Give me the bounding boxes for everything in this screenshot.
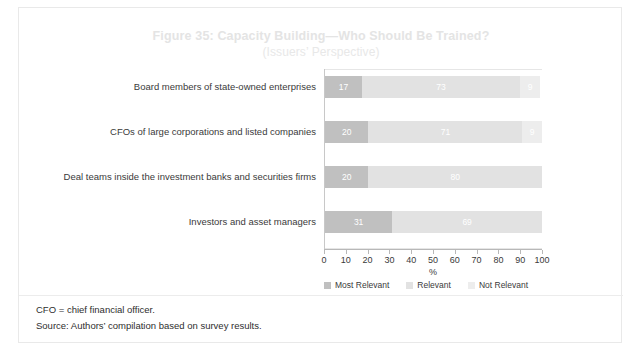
x-axis-ticks: 0 10 20 30 40 50 60 70 80 90 100 [324, 250, 542, 255]
bar-value-label: 20 [342, 127, 351, 137]
bar-row: Investors and asset managers 31 69 [19, 204, 623, 249]
bar-segment-most-relevant[interactable]: 20 [325, 121, 368, 143]
bar-segment-most-relevant[interactable]: 31 [325, 211, 392, 233]
stacked-bar: 31 69 [325, 211, 542, 233]
bar-value-label: 9 [530, 127, 535, 137]
bar-value-label: 80 [450, 172, 459, 182]
bar-row: Board members of state-owned enterprises… [19, 69, 623, 114]
legend-label: Not Relevant [479, 280, 528, 290]
bar-value-label: 71 [441, 127, 450, 137]
legend-label: Relevant [417, 280, 451, 290]
bar-segment-not-relevant[interactable]: 9 [522, 121, 542, 143]
legend-item-relevant[interactable]: Relevant [406, 280, 451, 290]
bar-segment-relevant[interactable]: 71 [368, 121, 522, 143]
note-abbreviation: CFO = chief financial officer. [36, 302, 596, 318]
figure-title-subtitle: (Issuers’ Perspective) [19, 44, 623, 60]
chart-plot-area: Board members of state-owned enterprises… [19, 69, 623, 264]
bar-value-label: 69 [462, 217, 471, 227]
bar-segment-relevant[interactable]: 73 [362, 76, 520, 98]
bar-segment-most-relevant[interactable]: 20 [325, 166, 368, 188]
category-label: Deal teams inside the investment banks a… [19, 171, 316, 182]
category-label: Investors and asset managers [19, 216, 316, 227]
bar-segment-relevant[interactable]: 80 [368, 166, 542, 188]
figure-container: Figure 35: Capacity Building—Who Should … [18, 7, 622, 343]
bar-value-label: 17 [339, 82, 348, 92]
legend-swatch-icon [468, 282, 475, 289]
legend-swatch-icon [324, 282, 331, 289]
x-tick-label: 100 [529, 255, 555, 265]
category-label: Board members of state-owned enterprises [19, 81, 316, 92]
note-source: Source: Authors’ compilation based on su… [36, 318, 596, 334]
bar-segment-relevant[interactable]: 69 [392, 211, 542, 233]
bar-value-label: 20 [342, 172, 351, 182]
stacked-bar: 17 73 9 [325, 76, 542, 98]
category-label: CFOs of large corporations and listed co… [19, 126, 316, 137]
legend-swatch-icon [406, 282, 413, 289]
figure-notes: CFO = chief financial officer. Source: A… [36, 302, 596, 334]
chart-legend: Most Relevant Relevant Not Relevant [324, 280, 564, 290]
bar-row: Deal teams inside the investment banks a… [19, 159, 623, 204]
bar-segment-most-relevant[interactable]: 17 [325, 76, 362, 98]
legend-label: Most Relevant [335, 280, 389, 290]
legend-item-most-relevant[interactable]: Most Relevant [324, 280, 389, 290]
bar-value-label: 73 [436, 82, 445, 92]
notes-divider [19, 295, 623, 296]
x-axis-title: % [324, 267, 542, 277]
bar-row: CFOs of large corporations and listed co… [19, 114, 623, 159]
figure-title: Figure 35: Capacity Building—Who Should … [19, 28, 623, 60]
bar-value-label: 31 [354, 217, 363, 227]
bar-segment-not-relevant[interactable]: 9 [520, 76, 540, 98]
figure-title-main: Figure 35: Capacity Building—Who Should … [19, 28, 623, 44]
stacked-bar: 20 80 [325, 166, 542, 188]
legend-item-not-relevant[interactable]: Not Relevant [468, 280, 528, 290]
bar-value-label: 9 [528, 82, 533, 92]
stacked-bar: 20 71 9 [325, 121, 542, 143]
